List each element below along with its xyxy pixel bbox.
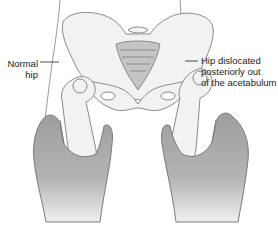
hip-dislocation-diagram: Normal hip Hip dislocated posteriorly ou…: [0, 0, 278, 227]
label-normal-hip-line-1: Normal: [4, 58, 38, 69]
label-dislocated-hip-line-1: Hip dislocated: [201, 55, 278, 66]
label-dislocated-hip-line-3: of the acetabulum: [201, 77, 278, 88]
label-normal-hip: Normal hip: [4, 58, 38, 80]
label-normal-hip-line-2: hip: [4, 69, 38, 80]
pelvis-illustration: [0, 0, 278, 227]
label-dislocated-hip: Hip dislocated posteriorly out of the ac…: [201, 55, 278, 88]
label-dislocated-hip-line-2: posteriorly out: [201, 66, 278, 77]
